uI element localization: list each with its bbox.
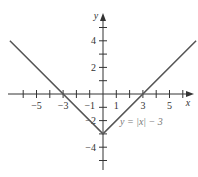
y-axis-label: y bbox=[93, 10, 99, 21]
y-tick-label: 4 bbox=[91, 35, 96, 46]
y-tick-label: −4 bbox=[85, 142, 96, 153]
x-axis: −5 −3 −1 1 3 5 x bbox=[8, 90, 194, 111]
x-tick-label: −1 bbox=[84, 100, 95, 111]
x-tick-label: −5 bbox=[31, 100, 42, 111]
x-tick-label: −3 bbox=[58, 100, 69, 111]
y-axis: 4 2 −2 −4 y bbox=[85, 10, 107, 170]
y-tick-label: 2 bbox=[91, 62, 96, 73]
graph: −5 −3 −1 1 3 5 x 4 2 −2 −4 y y = |x| − 3 bbox=[0, 0, 198, 177]
y-axis-arrow-icon bbox=[100, 13, 106, 21]
x-tick-label: 5 bbox=[167, 100, 172, 111]
equation-label: y = |x| − 3 bbox=[119, 116, 163, 127]
x-axis-label: x bbox=[185, 97, 191, 108]
x-tick-label: 3 bbox=[140, 100, 145, 111]
x-tick-label: 1 bbox=[114, 100, 119, 111]
